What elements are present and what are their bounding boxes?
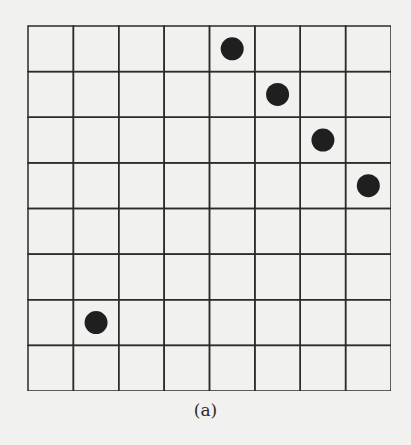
grid-cell — [164, 345, 209, 391]
grid-cell — [119, 72, 164, 118]
grid-cell — [73, 72, 118, 118]
grid-cell — [119, 209, 164, 255]
grid-cell — [164, 300, 209, 346]
grid-cell — [346, 72, 391, 118]
grid-cell — [28, 117, 73, 163]
grid-cell — [73, 117, 118, 163]
grid-cell — [28, 345, 73, 391]
grid-cell — [73, 345, 118, 391]
grid-cell — [346, 300, 391, 346]
grid-cell — [119, 26, 164, 72]
grid-cell — [164, 26, 209, 72]
grid-cell — [210, 72, 255, 118]
grid-cell — [300, 254, 345, 300]
grid-cell — [28, 26, 73, 72]
figure-caption: (a) — [0, 400, 411, 420]
grid-cell — [210, 254, 255, 300]
dot-marker — [357, 174, 380, 197]
grid-cell — [28, 300, 73, 346]
grid-cell — [119, 345, 164, 391]
grid-cell — [300, 26, 345, 72]
grid-cell — [119, 300, 164, 346]
grid-cell — [73, 254, 118, 300]
grid-cell — [210, 209, 255, 255]
grid-cell — [210, 345, 255, 391]
grid-cell — [300, 163, 345, 209]
dot-marker — [266, 83, 289, 106]
grid-cell — [300, 345, 345, 391]
grid-cell — [210, 117, 255, 163]
grid-cell — [346, 209, 391, 255]
grid-cell — [119, 163, 164, 209]
grid-cell — [28, 163, 73, 209]
grid-cell — [73, 163, 118, 209]
grid-cell — [210, 300, 255, 346]
grid-cell — [300, 209, 345, 255]
grid-cell — [346, 254, 391, 300]
grid-cell — [210, 163, 255, 209]
grid-cell — [255, 163, 300, 209]
grid-cell — [255, 345, 300, 391]
grid-cell — [164, 72, 209, 118]
grid-cell — [28, 254, 73, 300]
grid-cell — [255, 26, 300, 72]
grid-cell — [28, 209, 73, 255]
grid-cell — [255, 209, 300, 255]
grid-cell — [164, 163, 209, 209]
grid-cell — [346, 26, 391, 72]
grid-board — [27, 25, 391, 391]
dot-marker — [311, 129, 334, 152]
grid-cell — [73, 26, 118, 72]
grid-cell — [164, 254, 209, 300]
grid-cell — [164, 209, 209, 255]
grid-cell — [255, 117, 300, 163]
dot-marker — [221, 37, 244, 60]
grid-cell — [164, 117, 209, 163]
grid-cell — [255, 300, 300, 346]
grid-cell — [28, 72, 73, 118]
grid-cell — [346, 345, 391, 391]
grid-cell — [73, 209, 118, 255]
grid-cell — [255, 254, 300, 300]
grid-cell — [119, 117, 164, 163]
grid-cell — [300, 72, 345, 118]
grid-cell — [346, 117, 391, 163]
grid-cell — [300, 300, 345, 346]
dot-marker — [85, 311, 108, 334]
grid-cell — [119, 254, 164, 300]
